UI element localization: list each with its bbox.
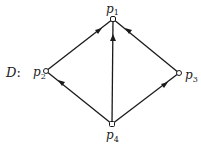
edge-p3-p1: [113, 19, 179, 73]
node-p4: [110, 122, 115, 127]
hasse-diagram: D: p1 p2 p3 p4: [0, 0, 201, 147]
edge-p4-p2: [46, 71, 112, 124]
label-p4: p4: [106, 128, 119, 144]
label-p2: p2: [33, 65, 46, 81]
edge-p2-p1: [46, 19, 113, 71]
label-p1: p1: [106, 2, 119, 17]
edge-p4-p3: [112, 73, 179, 124]
node-p3: [177, 71, 182, 76]
diagram-label: D:: [5, 65, 21, 80]
label-p3: p3: [185, 68, 198, 84]
arrow-icon-p4-p3: [161, 82, 168, 88]
node-p1: [111, 17, 116, 22]
arrow-icon-p4-p1: [110, 34, 116, 41]
arrow-icon-p2-p1: [95, 28, 102, 34]
